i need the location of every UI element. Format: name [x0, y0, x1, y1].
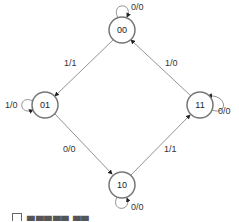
state-node-11: 11 — [187, 92, 213, 118]
state-label-00: 00 — [117, 25, 127, 35]
self-loop-label-10: 0/0 — [131, 202, 144, 212]
state-node-00: 00 — [109, 17, 135, 43]
caption-text: ▆▆▆▆▆ ▆▆ — [27, 213, 90, 222]
state-label-10: 10 — [117, 180, 127, 190]
edge-label-11-00: 1/0 — [165, 58, 178, 68]
state-node-01: 01 — [32, 92, 58, 118]
self-loop-00 — [116, 6, 128, 18]
self-loop-label-01: 1/0 — [5, 100, 18, 110]
edge-label-01-10: 0/0 — [63, 144, 76, 154]
state-node-10: 10 — [109, 172, 135, 198]
edge-label-10-11: 1/1 — [164, 144, 177, 154]
edge-label-00-01: 1/1 — [64, 58, 77, 68]
edge-10-to-11 — [131, 115, 190, 175]
self-loop-label-11: 0/0 — [218, 106, 231, 116]
figure-caption: ▆▆▆▆▆ ▆▆ — [12, 212, 90, 221]
state-diagram: 1/1 1/0 0/0 1/1 0/0 1/0 0/0 0/0 00 01 11… — [0, 0, 239, 221]
edge-00-to-01 — [55, 40, 113, 96]
edge-11-to-00 — [131, 40, 191, 96]
self-loop-label-00: 0/0 — [131, 2, 144, 12]
state-label-01: 01 — [40, 100, 50, 110]
state-label-11: 11 — [195, 100, 204, 110]
caption-square-icon — [12, 213, 22, 221]
